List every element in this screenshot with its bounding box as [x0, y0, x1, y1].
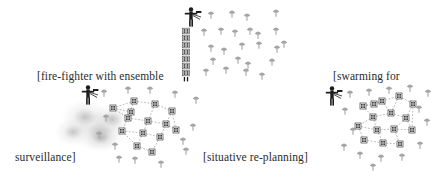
- label-surveillance: surveillance]: [15, 152, 76, 164]
- robot-node: [397, 141, 403, 147]
- agent-marker: [235, 57, 241, 64]
- robot-node: [169, 108, 175, 114]
- human-figures: [82, 7, 343, 105]
- label-swarming-for: [swarming for: [333, 71, 400, 83]
- agent-marker: [273, 28, 279, 35]
- stack-leg: [184, 77, 185, 81]
- robot-node: [128, 109, 134, 115]
- agent-marker: [180, 138, 186, 145]
- robot-node: [145, 118, 151, 124]
- robot-node: [157, 134, 163, 140]
- fire-fighter-figure: [326, 86, 343, 105]
- robot-node: [140, 130, 146, 136]
- robot-node: [374, 127, 380, 133]
- agent-marker: [218, 28, 224, 35]
- agent-marker: [342, 108, 348, 115]
- label-fire-fighter-with-ensemble: [fire-fighter with ensemble: [37, 71, 164, 83]
- agent-marker: [259, 73, 265, 80]
- agent-marker: [232, 30, 238, 37]
- agent-marker: [256, 42, 262, 49]
- agent-marker: [147, 87, 153, 94]
- agent-marker: [417, 142, 423, 149]
- robot-node: [380, 140, 386, 146]
- agent-marker: [243, 69, 249, 76]
- robot-node: [125, 115, 131, 121]
- agent-marker: [229, 11, 235, 18]
- robot-node: [370, 114, 376, 120]
- agent-marker: [247, 28, 253, 35]
- agent-marker: [208, 45, 214, 52]
- robot-node: [371, 101, 377, 107]
- agent-marker: [357, 152, 363, 159]
- agent-marker: [244, 14, 250, 21]
- agent-marker: [223, 67, 229, 74]
- agent-marker: [221, 48, 227, 55]
- robot-block: [183, 70, 190, 76]
- agent-marker: [366, 89, 372, 96]
- agent-marker: [101, 90, 107, 97]
- robot-node: [119, 128, 125, 134]
- agent-marker: [255, 32, 261, 39]
- robot-node: [379, 98, 385, 104]
- robot-node: [173, 127, 179, 133]
- agent-marker: [116, 156, 122, 163]
- agent-marker: [416, 106, 422, 113]
- agent-marker: [350, 128, 356, 135]
- agent-marker: [269, 59, 275, 66]
- robot-node: [360, 103, 366, 109]
- agent-marker: [183, 148, 189, 155]
- agent-marker: [190, 124, 196, 131]
- robot-node: [149, 149, 155, 155]
- robot-block: [183, 56, 190, 62]
- robot-node: [391, 126, 397, 132]
- agent-marker: [273, 10, 279, 17]
- agent-marker: [274, 46, 280, 53]
- agent-marker: [407, 85, 413, 92]
- agent-marker: [341, 144, 347, 151]
- agent-marker: [193, 97, 199, 104]
- agent-marker: [125, 87, 131, 94]
- agent-marker: [425, 90, 431, 97]
- robot-block: [183, 28, 190, 34]
- robot-stack: [183, 28, 190, 81]
- robot-node: [110, 105, 116, 111]
- agent-marker: [208, 12, 214, 19]
- robot-node: [361, 137, 367, 143]
- stack-leg: [187, 77, 188, 81]
- agent-marker: [132, 157, 138, 164]
- agent-marker: [378, 155, 384, 162]
- figure-canvas: [fire-fighter with ensemble surveillance…: [0, 0, 439, 179]
- robot-node: [152, 101, 158, 107]
- robot-block: [183, 35, 190, 41]
- robot-node: [134, 143, 140, 149]
- agent-marker: [281, 41, 287, 48]
- fire-fighter-figure: [82, 85, 99, 104]
- robot-node: [410, 101, 416, 107]
- label-situative-re-planning: [situative re-planning]: [203, 152, 308, 164]
- agent-marker: [112, 143, 118, 150]
- robot-node: [163, 121, 169, 127]
- agent-marker: [424, 119, 430, 126]
- fire-fighter-figure: [185, 7, 202, 26]
- agent-marker: [386, 87, 392, 94]
- robot-node: [403, 115, 409, 121]
- robot-block: [183, 49, 190, 55]
- robot-node: [388, 110, 394, 116]
- agent-marker: [103, 115, 109, 122]
- agent-marker: [201, 29, 207, 36]
- agent-marker: [399, 154, 405, 161]
- agent-marker: [96, 132, 102, 139]
- agent-marker: [239, 43, 245, 50]
- robot-node: [409, 127, 415, 133]
- network-link: [412, 104, 413, 130]
- agent-marker: [172, 91, 178, 98]
- agent-marker: [245, 62, 251, 69]
- robot-block: [183, 42, 190, 48]
- robot-node: [355, 123, 361, 129]
- agent-markers: [96, 10, 431, 171]
- agent-marker: [347, 91, 353, 98]
- agent-marker: [158, 161, 164, 168]
- agent-marker: [370, 164, 376, 171]
- agent-marker: [210, 58, 216, 65]
- robot-node: [131, 98, 137, 104]
